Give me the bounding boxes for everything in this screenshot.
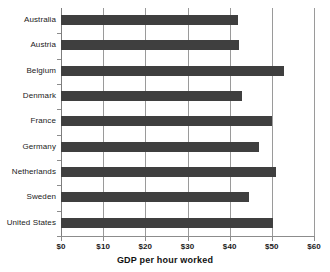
bar-row bbox=[61, 109, 314, 134]
category-label: Austria bbox=[30, 40, 56, 50]
bar bbox=[61, 218, 273, 228]
x-tick-mark bbox=[188, 237, 189, 241]
category-label: Belgium bbox=[26, 66, 56, 76]
x-axis-title: GDP per hour worked bbox=[0, 255, 330, 265]
bar bbox=[61, 192, 249, 202]
bar bbox=[61, 167, 276, 177]
x-tick-label: $50 bbox=[252, 242, 292, 252]
x-tick-mark bbox=[230, 237, 231, 241]
category-label: United States bbox=[7, 218, 56, 228]
y-tick-mark bbox=[57, 236, 61, 237]
bar bbox=[61, 40, 239, 50]
bar-row bbox=[61, 8, 314, 33]
category-label: Australia bbox=[24, 15, 56, 25]
bar-row bbox=[61, 84, 314, 109]
x-tick-label: $30 bbox=[168, 242, 208, 252]
x-tick-mark bbox=[61, 237, 62, 241]
bar bbox=[61, 116, 272, 126]
x-tick-mark bbox=[314, 237, 315, 241]
x-tick-mark bbox=[103, 237, 104, 241]
bar-row bbox=[61, 211, 314, 236]
x-tick-mark bbox=[145, 237, 146, 241]
bar bbox=[61, 91, 242, 101]
bar-row bbox=[61, 59, 314, 84]
bar-row bbox=[61, 33, 314, 58]
category-label: Netherlands bbox=[12, 167, 56, 177]
bar bbox=[61, 15, 238, 25]
bar-row bbox=[61, 135, 314, 160]
gridline bbox=[314, 8, 315, 236]
category-label: France bbox=[31, 116, 57, 126]
x-tick-label: $20 bbox=[125, 242, 165, 252]
x-tick-label: $10 bbox=[83, 242, 123, 252]
category-label: Germany bbox=[22, 142, 56, 152]
bar bbox=[61, 66, 284, 76]
x-tick-label: $40 bbox=[210, 242, 250, 252]
x-tick-label: $60 bbox=[294, 242, 330, 252]
bar bbox=[61, 142, 259, 152]
bar-chart-figure: AustraliaAustriaBelgiumDenmarkFranceGerm… bbox=[0, 0, 330, 272]
x-tick-label: $0 bbox=[41, 242, 81, 252]
category-label: Sweden bbox=[26, 192, 56, 202]
x-tick-mark bbox=[272, 237, 273, 241]
category-label: Denmark bbox=[23, 91, 56, 101]
bar-row bbox=[61, 185, 314, 210]
bar-row bbox=[61, 160, 314, 185]
